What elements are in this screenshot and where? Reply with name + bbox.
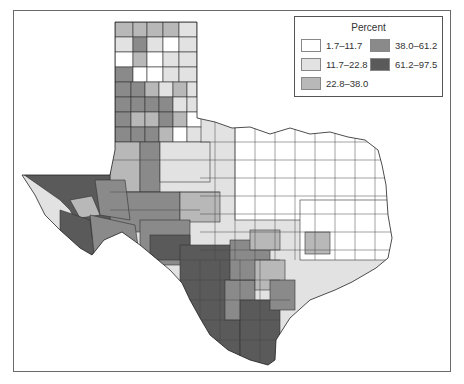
legend-label: 38.0–61.2 [395,40,437,51]
legend-label: 1.7–11.7 [326,40,362,51]
legend-item-2: 11.7–22.8 [301,58,368,71]
legend-item-4: 38.0–61.2 [370,39,437,52]
legend: Percent 1.7–11.7 11.7–22.8 22.8–38.0 38.… [294,16,443,97]
legend-item-3: 22.8–38.0 [301,77,368,90]
legend-label: 11.7–22.8 [326,59,368,70]
legend-swatch [301,39,321,52]
legend-label: 61.2–97.5 [395,59,437,70]
legend-item-1: 1.7–11.7 [301,39,362,52]
legend-label: 22.8–38.0 [326,78,368,89]
legend-swatch [370,58,390,71]
legend-swatch [370,39,390,52]
legend-swatch [301,58,321,71]
legend-title: Percent [295,22,442,33]
legend-swatch [301,77,321,90]
legend-item-5: 61.2–97.5 [370,58,437,71]
